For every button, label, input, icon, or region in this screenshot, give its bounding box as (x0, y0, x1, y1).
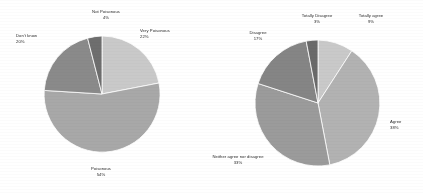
pie-label-dont-know: Don't know 20% (16, 33, 37, 44)
pie-label-totally-agree: Totally agree 9% (359, 13, 383, 24)
pie-label-dont-know-pct: 20% (16, 39, 37, 45)
two-pie-chart-figure: Not Poisonous 4% Very Poisonous 22% Don'… (0, 0, 423, 193)
pie-slices-left (44, 36, 160, 152)
pie-label-not-poisonous-pct: 4% (92, 15, 120, 21)
pie-label-very-poisonous-name: Very Poisonous (140, 28, 170, 34)
pie-label-agree-pct: 38% (390, 125, 401, 131)
pie-label-totally-disagree-pct: 3% (302, 19, 333, 25)
pie-svg-left (0, 0, 211, 193)
pie-label-neither-pct: 33% (212, 160, 263, 166)
pie-label-poisonous: Poisonous 54% (91, 166, 111, 177)
pie-label-very-poisonous: Very Poisonous 22% (140, 28, 170, 39)
pie-label-very-poisonous-pct: 22% (140, 34, 170, 40)
pie-label-neither: Neither agree nor disagree 33% (212, 154, 263, 165)
pie-label-poisonous-pct: 54% (91, 172, 111, 178)
pie-label-not-poisonous-name: Not Poisonous (92, 9, 120, 15)
pie-chart-perceived-toxicity: Not Poisonous 4% Very Poisonous 22% Don'… (0, 0, 211, 193)
pie-label-totally-disagree-name: Totally Disagree (302, 13, 333, 19)
pie-label-dont-know-name: Don't know (16, 33, 37, 39)
pie-label-agree-name: Agree (390, 119, 401, 125)
pie-chart-agreement-scale: Totally Disagree 3% Totally agree 9% Dis… (212, 0, 423, 193)
pie-label-not-poisonous: Not Poisonous 4% (92, 9, 120, 20)
pie-label-disagree-pct: 17% (249, 36, 266, 42)
pie-label-totally-agree-pct: 9% (359, 19, 383, 25)
pie-label-poisonous-name: Poisonous (91, 166, 111, 172)
pie-label-disagree: Disagree 17% (249, 30, 266, 41)
pie-label-totally-agree-name: Totally agree (359, 13, 383, 19)
pie-label-agree: Agree 38% (390, 119, 401, 130)
pie-label-disagree-name: Disagree (249, 30, 266, 36)
pie-slices-right (255, 40, 380, 166)
pie-label-neither-name: Neither agree nor disagree (212, 154, 263, 160)
pie-label-totally-disagree: Totally Disagree 3% (302, 13, 333, 24)
